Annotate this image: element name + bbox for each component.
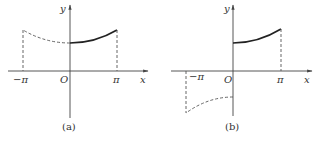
dashed-curve (186, 97, 233, 113)
solid-curve (70, 30, 117, 43)
tick-label-neg-pi: −π (13, 74, 28, 85)
tick-label-pi: π (112, 74, 120, 85)
panel-b: y x O −π π (b) (171, 3, 312, 132)
y-axis-label: y (223, 3, 230, 14)
panel-a: y x O −π π (a) (8, 3, 148, 132)
caption-b: (b) (225, 121, 239, 132)
dashed-curve (23, 30, 70, 43)
caption-a: (a) (62, 121, 76, 132)
x-axis-label: x (304, 74, 310, 85)
origin-label: O (224, 74, 232, 85)
tick-label-neg-pi: −π (189, 71, 204, 82)
origin-label: O (60, 74, 68, 85)
tick-label-pi: π (276, 74, 284, 85)
y-axis-label: y (59, 3, 66, 14)
solid-curve (233, 29, 281, 43)
x-axis-label: x (140, 74, 146, 85)
figure-canvas: y x O −π π (a) y x O −π π (b) (0, 0, 319, 145)
